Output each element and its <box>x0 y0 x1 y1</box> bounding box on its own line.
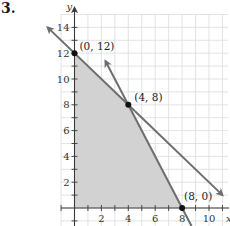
y-tick-label: 12 <box>57 48 70 59</box>
y-tick-label: 14 <box>57 22 70 33</box>
x-tick-label: 6 <box>152 213 158 224</box>
y-tick-label: 8 <box>63 99 69 110</box>
x-tick-label: 8 <box>179 213 185 224</box>
y-axis-label: y <box>66 1 73 12</box>
feasible-region-graph: yx2468102468101214 (0, 12)(4, 8)(8, 0) <box>0 0 230 226</box>
corner-point <box>125 102 131 108</box>
x-tick-label: 10 <box>203 213 216 224</box>
point-label: (4, 8) <box>134 91 162 103</box>
corner-point <box>72 50 78 56</box>
y-tick-label: 10 <box>57 74 70 85</box>
y-tick-label: 2 <box>63 177 69 188</box>
y-tick-label: 4 <box>63 151 69 162</box>
point-label: (8, 0) <box>184 190 212 202</box>
x-axis-label: x <box>226 213 230 224</box>
point-label: (0, 12) <box>80 40 115 52</box>
y-tick-label: 6 <box>63 125 69 136</box>
x-tick-label: 2 <box>98 213 104 224</box>
x-tick-label: 4 <box>125 213 131 224</box>
corner-point <box>179 205 185 211</box>
